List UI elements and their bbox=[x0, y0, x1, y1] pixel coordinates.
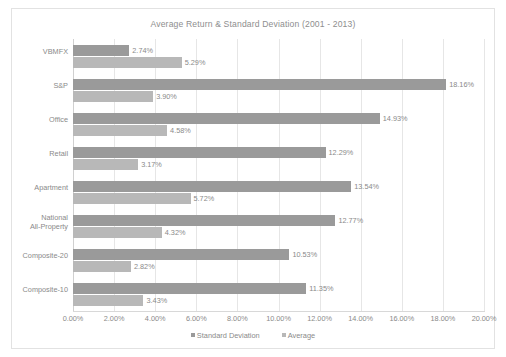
bar-standard-deviation bbox=[73, 45, 129, 56]
bar-value-standard-deviation: 18.16% bbox=[449, 79, 474, 90]
bar-value-standard-deviation: 10.53% bbox=[292, 249, 317, 260]
x-axis-tick: 6.00% bbox=[186, 314, 207, 323]
x-axis-tick: 8.00% bbox=[227, 314, 248, 323]
bar-average bbox=[73, 125, 167, 136]
bar-value-standard-deviation: 2.74% bbox=[132, 45, 153, 56]
bar-average bbox=[73, 91, 153, 102]
category-label-office: Office bbox=[8, 115, 68, 125]
category-group: Composite-2010.53%2.82% bbox=[73, 249, 484, 272]
category-group: Office14.93%4.58% bbox=[73, 113, 484, 136]
category-label-national-all-property: NationalAll-Property bbox=[8, 213, 68, 232]
bar-value-standard-deviation: 11.35% bbox=[309, 283, 333, 294]
bar-standard-deviation bbox=[73, 147, 326, 158]
category-label-line: Composite-10 bbox=[8, 285, 68, 295]
legend-item-average[interactable]: Average bbox=[282, 331, 315, 340]
bar-value-standard-deviation: 13.54% bbox=[354, 181, 379, 192]
x-axis-tick: 2.00% bbox=[104, 314, 125, 323]
bar-standard-deviation bbox=[73, 215, 335, 226]
bar-standard-deviation bbox=[73, 283, 306, 294]
plot-area: VBMFX2.74%5.29%S&P18.16%3.90%Office14.93… bbox=[73, 39, 484, 311]
gridline bbox=[484, 39, 485, 311]
bar-average bbox=[73, 261, 131, 272]
x-axis-tick: 12.00% bbox=[307, 314, 332, 323]
category-label-line: National bbox=[8, 213, 68, 223]
category-label-line: Office bbox=[8, 115, 68, 125]
x-axis-tick: 20.00% bbox=[472, 314, 497, 323]
category-group: Retail12.29%3.17% bbox=[73, 147, 484, 170]
x-axis-tick-labels: 0.00%2.00%4.00%6.00%8.00%10.00%12.00%14.… bbox=[73, 314, 484, 328]
bar-average bbox=[73, 227, 162, 238]
bar-value-average: 3.17% bbox=[141, 159, 162, 170]
legend-label: Average bbox=[288, 331, 315, 340]
bar-standard-deviation bbox=[73, 113, 380, 124]
category-group: VBMFX2.74%5.29% bbox=[73, 45, 484, 68]
category-label-apartment: Apartment bbox=[8, 183, 68, 193]
x-axis-tick: 18.00% bbox=[431, 314, 456, 323]
category-label-line: Composite-20 bbox=[8, 251, 68, 261]
category-group: NationalAll-Property12.77%4.32% bbox=[73, 215, 484, 238]
category-label-line: Apartment bbox=[8, 183, 68, 193]
category-group: Apartment13.54%5.72% bbox=[73, 181, 484, 204]
category-label-line: S&P bbox=[8, 81, 68, 91]
chart-legend: Standard DeviationAverage bbox=[12, 331, 494, 340]
x-axis-tick: 4.00% bbox=[145, 314, 166, 323]
bar-standard-deviation bbox=[73, 79, 446, 90]
bar-standard-deviation bbox=[73, 249, 289, 260]
category-label-s-p: S&P bbox=[8, 81, 68, 91]
category-label-composite-20: Composite-20 bbox=[8, 251, 68, 261]
x-axis-tick: 10.00% bbox=[266, 314, 291, 323]
bar-value-average: 4.32% bbox=[165, 227, 186, 238]
bar-value-average: 2.82% bbox=[134, 261, 155, 272]
x-axis-tick: 0.00% bbox=[63, 314, 84, 323]
category-label-composite-10: Composite-10 bbox=[8, 285, 68, 295]
category-group: S&P18.16%3.90% bbox=[73, 79, 484, 102]
x-axis-line bbox=[73, 311, 485, 312]
legend-swatch-icon bbox=[191, 333, 195, 337]
category-group: Composite-1011.35%3.43% bbox=[73, 283, 484, 306]
bar-value-average: 3.43% bbox=[146, 295, 167, 306]
bar-value-average: 3.90% bbox=[156, 91, 177, 102]
bar-standard-deviation bbox=[73, 181, 351, 192]
bar-value-average: 5.72% bbox=[194, 193, 215, 204]
bar-average bbox=[73, 193, 191, 204]
bar-value-standard-deviation: 14.93% bbox=[383, 113, 408, 124]
category-label-line: All-Property bbox=[8, 222, 68, 232]
category-label-retail: Retail bbox=[8, 149, 68, 159]
bar-value-average: 5.29% bbox=[185, 57, 206, 68]
chart-container: Average Return & Standard Deviation (200… bbox=[11, 8, 495, 349]
bar-average bbox=[73, 295, 143, 306]
bar-value-average: 4.58% bbox=[170, 125, 191, 136]
chart-title: Average Return & Standard Deviation (200… bbox=[12, 19, 494, 29]
x-axis-tick: 16.00% bbox=[389, 314, 414, 323]
legend-swatch-icon bbox=[282, 333, 286, 337]
bar-average bbox=[73, 159, 138, 170]
bar-average bbox=[73, 57, 182, 68]
bar-value-standard-deviation: 12.29% bbox=[329, 147, 354, 158]
category-label-vbmfx: VBMFX bbox=[8, 47, 68, 57]
x-axis-tick: 14.00% bbox=[348, 314, 373, 323]
legend-label: Standard Deviation bbox=[197, 331, 260, 340]
legend-item-standard-deviation[interactable]: Standard Deviation bbox=[191, 331, 260, 340]
bar-value-standard-deviation: 12.77% bbox=[338, 215, 363, 226]
category-label-line: VBMFX bbox=[8, 47, 68, 57]
category-label-line: Retail bbox=[8, 149, 68, 159]
